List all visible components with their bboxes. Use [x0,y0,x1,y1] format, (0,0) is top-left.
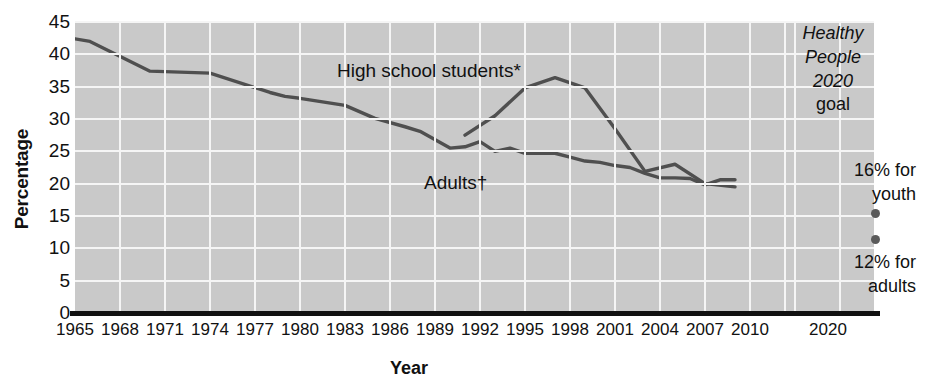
youth-goal-point [871,209,880,218]
horizontal-gridline [75,118,874,120]
goal-title-line-2: People [793,46,873,70]
y-axis-tick-label: 5 [28,271,70,290]
y-axis-tick-label: 45 [28,12,70,31]
x-axis-tick-label: 1983 [326,320,364,340]
x-axis-tick-label: 1965 [56,320,94,340]
x-axis-tick-label: 1998 [551,320,589,340]
vertical-gridline [524,22,526,313]
horizontal-gridline [75,247,874,249]
y-axis-tick-label: 30 [28,109,70,128]
vertical-gridline [254,22,256,313]
vertical-gridline [704,22,706,313]
x-axis-tick-label: 1977 [236,320,274,340]
y-axis-tick-label: 40 [28,44,70,63]
youth-goal-note-line-2: youth [854,182,916,206]
x-axis-tick-label: 1980 [281,320,319,340]
vertical-gridline [299,22,301,313]
x-axis-tick-label: 1971 [146,320,184,340]
horizontal-gridline [75,215,874,217]
youth-goal-note: 16% for youth [854,158,916,207]
vertical-gridline [119,22,121,313]
horizontal-gridline [75,21,874,23]
x-axis-tick-label: 1989 [416,320,454,340]
adults-goal-note-line-1: 12% for [854,250,916,274]
vertical-gridline [209,22,211,313]
x-axis-tick-label: 2020 [809,320,847,340]
youth-goal-note-line-1: 16% for [854,158,916,182]
x-axis-tick-label: 2004 [641,320,679,340]
y-axis-tick-label: 20 [28,174,70,193]
x-axis-tick-label: 2001 [596,320,634,340]
horizontal-gridline [75,150,874,152]
adults-goal-note: 12% for adults [854,250,916,299]
adults-series-label: Adults† [424,172,487,194]
x-axis-tick-label: 1974 [191,320,229,340]
x-axis-tick-label: 1968 [101,320,139,340]
series-line [465,78,735,187]
y-axis-tick-label: 15 [28,206,70,225]
horizontal-gridline [75,86,874,88]
vertical-gridline [659,22,661,313]
goal-title-line-4: goal [793,93,873,117]
goal-title-line-1: Healthy [793,22,873,46]
x-axis-baseline [70,311,880,316]
healthy-people-goal-title: Healthy People 2020 goal [793,22,873,117]
goal-title-line-3: 2020 [793,70,873,94]
smoking-prevalence-line-chart: Percentage 454035302520151050 1965196819… [0,0,926,387]
adults-goal-point [871,235,880,244]
vertical-gridline [569,22,571,313]
adults-goal-note-line-2: adults [854,274,916,298]
x-axis-tick-label: 1992 [461,320,499,340]
vertical-gridline [749,22,751,313]
y-axis-tick-label: 10 [28,238,70,257]
x-axis-title: Year [390,358,428,379]
horizontal-gridline [75,53,874,55]
x-axis-tick-label: 1986 [371,320,409,340]
y-axis-tick-label: 25 [28,141,70,160]
y-axis-tick-label: 35 [28,77,70,96]
x-axis-tick-label: 2010 [731,320,769,340]
x-axis-tick-label: 1995 [506,320,544,340]
high-school-series-label: High school students* [337,60,521,82]
vertical-gridline [164,22,166,313]
vertical-gridline [784,22,786,313]
horizontal-gridline [75,280,874,282]
x-axis-tick-label: 2007 [686,320,724,340]
vertical-gridline [614,22,616,313]
